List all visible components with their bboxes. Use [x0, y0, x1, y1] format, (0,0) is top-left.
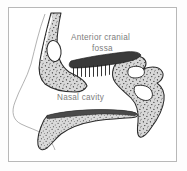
figure-frame: Anterior cranial fossa Nasal cavity — [8, 7, 177, 162]
label-anterior-cranial-fossa-line2: fossa — [92, 44, 113, 53]
label-anterior-cranial-fossa-line1: Anterior cranial — [71, 33, 130, 42]
anatomy-diagram: Anterior cranial fossa Nasal cavity — [9, 8, 176, 161]
label-nasal-cavity: Nasal cavity — [57, 93, 105, 102]
figure-root: Anterior cranial fossa Nasal cavity — [0, 0, 187, 171]
sphenoid-recess-upper — [128, 66, 145, 78]
